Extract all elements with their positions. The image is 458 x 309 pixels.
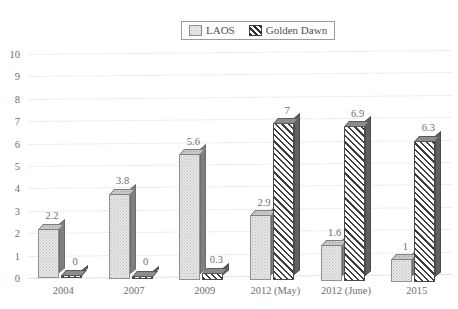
bar-group: 5.60.3: [169, 20, 240, 282]
bar-front-face: [391, 259, 412, 281]
bar-front-face: [321, 245, 342, 281]
bar-side-face: [365, 116, 371, 276]
bar-side-face: [435, 130, 441, 276]
x-tick-label: 2007: [124, 286, 145, 297]
x-tick-label: 2015: [406, 286, 427, 297]
bar-value-label: 7: [284, 106, 289, 117]
bar-front-face: [414, 141, 435, 282]
bar-group: 16.3: [381, 20, 452, 282]
x-tick-label: 2012 (May): [250, 286, 300, 297]
y-tick-label: 8: [15, 95, 20, 106]
y-tick-label: 6: [15, 139, 20, 150]
x-tick-label: 2012 (June): [321, 286, 371, 297]
legend-item-golden-dawn[interactable]: Golden Dawn: [249, 25, 327, 36]
bar-front-face: [179, 154, 200, 279]
hatched-swatch-icon: [249, 25, 262, 36]
dotted-swatch-icon: [189, 25, 202, 36]
bar-side-face: [200, 144, 206, 274]
bar-value-label: 2.2: [45, 211, 58, 222]
plot-area: 012345678910 2.203.805.60.32.971.66.916.…: [28, 20, 452, 282]
bar-value-label: 6.9: [351, 109, 364, 120]
x-tick-label: 2004: [53, 286, 74, 297]
bar-value-label: 1.6: [328, 228, 341, 239]
bar-side-face: [130, 184, 136, 274]
bar-group: 2.97: [240, 20, 311, 282]
bar-top-cap: [132, 271, 158, 277]
bar-value-label: 2.9: [257, 198, 270, 209]
y-tick-label: 4: [15, 184, 20, 195]
bar-value-label: 1: [403, 242, 408, 253]
y-tick-label: 7: [15, 117, 20, 128]
bar-value-label: 6.3: [422, 123, 435, 134]
bar-front-face: [273, 123, 294, 280]
bar-group: 2.20: [28, 20, 99, 282]
bar-top-cap: [61, 270, 87, 276]
bar-front-face: [38, 229, 59, 278]
y-tick-label: 2: [15, 229, 20, 240]
bar-value-label: 0: [143, 257, 148, 268]
legend-label-laos: LAOS: [206, 25, 235, 36]
bar-value-label: 0.3: [210, 255, 223, 266]
y-tick-label: 3: [15, 207, 20, 218]
legend-label-golden-dawn: Golden Dawn: [266, 25, 327, 36]
bar-side-face: [294, 113, 300, 275]
y-tick-label: 1: [15, 251, 20, 262]
bar-front-face: [344, 126, 365, 281]
bar-front-face: [109, 194, 130, 279]
bar-front-face: [250, 215, 271, 280]
chart-legend: LAOS Golden Dawn: [181, 21, 335, 40]
legend-item-laos[interactable]: LAOS: [189, 25, 235, 36]
y-tick-label: 5: [15, 162, 20, 173]
bar-group: 1.66.9: [311, 20, 382, 282]
y-tick-label: 9: [15, 72, 20, 83]
bar-top-cap: [109, 189, 135, 195]
bar-value-label: 0: [72, 257, 77, 268]
x-tick-label: 2009: [194, 286, 215, 297]
bar-group: 3.80: [99, 20, 170, 282]
y-tick-label: 0: [15, 274, 20, 285]
y-tick-label: 10: [10, 50, 21, 61]
bar-value-label: 3.8: [116, 176, 129, 187]
bar-value-label: 5.6: [187, 137, 200, 148]
bar-chart: 012345678910 2.203.805.60.32.971.66.916.…: [0, 0, 458, 309]
